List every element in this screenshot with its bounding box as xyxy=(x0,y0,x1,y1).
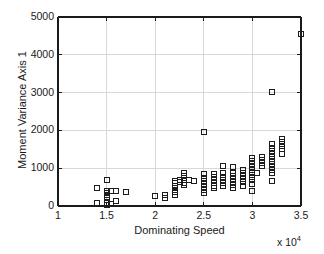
data-point-marker xyxy=(254,170,260,176)
data-point-marker xyxy=(230,164,236,170)
x-tick-label: 3.5 xyxy=(281,210,321,221)
data-point-marker xyxy=(104,177,110,183)
data-point-marker xyxy=(249,188,255,194)
x-tick-label: 3 xyxy=(232,210,272,221)
data-point-marker xyxy=(94,200,100,206)
scatter-plot-figure: Moment Variance Axis 1 01000200030004000… xyxy=(0,0,324,254)
data-point-marker xyxy=(298,31,304,37)
x-axis-exponent-label: x 104 xyxy=(277,234,301,248)
x-tick-label: 2 xyxy=(135,210,175,221)
data-point-marker xyxy=(113,198,119,204)
x-tick-label: 1 xyxy=(38,210,78,221)
data-point-marker xyxy=(181,170,187,176)
exponent-power: 4 xyxy=(297,234,301,243)
data-point-marker xyxy=(269,141,275,147)
data-point-marker xyxy=(269,89,275,95)
data-point-marker xyxy=(94,185,100,191)
data-point-marker xyxy=(201,171,207,177)
data-point-marker xyxy=(201,129,207,135)
data-point-marker xyxy=(211,171,217,177)
data-point-marker xyxy=(220,170,226,176)
data-point-marker xyxy=(113,188,119,194)
data-point-marker xyxy=(191,178,197,184)
data-point-marker xyxy=(162,192,168,198)
x-axis-title: Dominating Speed xyxy=(58,224,301,236)
data-point-marker xyxy=(249,155,255,161)
x-tick-label: 2.5 xyxy=(184,210,224,221)
data-point-marker xyxy=(220,163,226,169)
data-point-marker xyxy=(123,189,129,195)
data-point-marker xyxy=(279,151,285,157)
data-point-marker xyxy=(240,167,246,173)
data-point-marker xyxy=(230,170,236,176)
data-point-marker xyxy=(279,136,285,142)
data-point-marker xyxy=(259,154,265,160)
x-tick-label: 1.5 xyxy=(87,210,127,221)
data-point-marker xyxy=(269,178,275,184)
data-point-marker xyxy=(152,193,158,199)
exponent-base: x 10 xyxy=(277,236,297,248)
